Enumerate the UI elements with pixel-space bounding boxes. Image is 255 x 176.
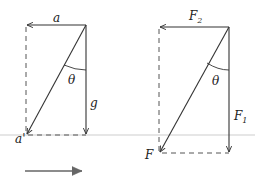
label-F: F <box>144 148 154 162</box>
vector-F-arrow <box>160 27 229 152</box>
label-theta: θ <box>212 74 220 88</box>
label-a-prime: a' <box>15 132 25 146</box>
label-a: a <box>53 11 60 25</box>
label-theta: θ <box>68 73 76 87</box>
label-F1: F1 <box>233 109 247 125</box>
force-diagram: F2 F1 F θ <box>144 9 247 162</box>
vector-a-prime-arrow <box>27 25 86 134</box>
vector-diagrams: a g a' θ F2 F1 F θ <box>0 0 255 176</box>
angle-arc <box>64 65 86 70</box>
label-g: g <box>90 96 98 110</box>
acceleration-diagram: a g a' θ <box>15 11 98 146</box>
label-F2: F2 <box>188 9 202 25</box>
angle-arc <box>207 63 229 70</box>
